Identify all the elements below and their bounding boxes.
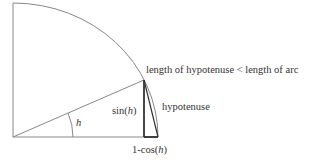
quarter-circle-diagram — [0, 0, 313, 161]
hypotenuse-label: hypotenuse — [162, 102, 210, 113]
angle-label: h — [76, 118, 81, 129]
one-minus-cos-label: 1-cos(h) — [132, 145, 167, 156]
annotation-hypotenuse-vs-arc: length of hypotenuse < length of arc — [146, 65, 298, 76]
hypotenuse-segment — [144, 80, 158, 137]
sine-label: sin(h) — [112, 106, 137, 117]
angle-arc — [68, 113, 73, 137]
unit-arc — [13, 3, 158, 137]
